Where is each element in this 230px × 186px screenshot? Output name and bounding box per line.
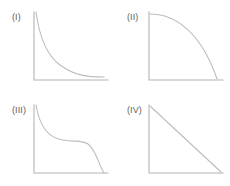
curve-iii bbox=[36, 105, 104, 173]
plot-area-iii bbox=[30, 103, 112, 181]
axes-iii bbox=[34, 105, 108, 173]
panel-label-ii: (II) bbox=[127, 12, 138, 22]
graph-panel-iv: (IV) bbox=[115, 93, 230, 186]
curve-iv bbox=[150, 106, 221, 172]
curve-ii bbox=[150, 14, 217, 79]
plot-area-i bbox=[30, 10, 112, 88]
axes-ii bbox=[149, 12, 223, 80]
panel-label-iii: (III) bbox=[12, 105, 26, 115]
graph-panel-ii: (II) bbox=[115, 0, 230, 93]
panel-label-iv: (IV) bbox=[127, 105, 142, 115]
plot-area-ii bbox=[145, 10, 227, 88]
graph-panel-iii: (III) bbox=[0, 93, 115, 186]
curve-i bbox=[36, 12, 104, 77]
four-graphs-figure: (I) (II) (III) (IV) bbox=[0, 0, 230, 186]
panel-label-i: (I) bbox=[12, 12, 21, 22]
plot-area-iv bbox=[145, 103, 227, 181]
graph-panel-i: (I) bbox=[0, 0, 115, 93]
